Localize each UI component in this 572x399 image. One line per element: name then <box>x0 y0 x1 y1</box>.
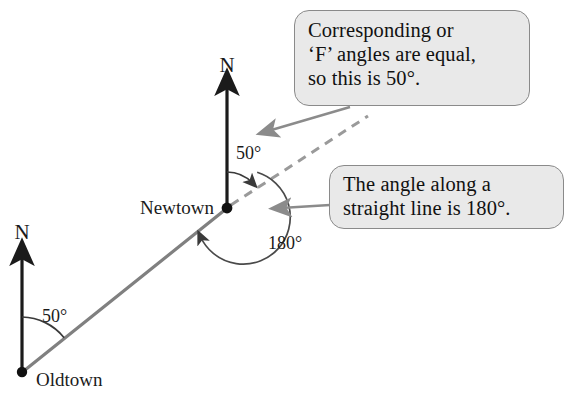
callout-pointer-corresponding <box>268 107 350 131</box>
angle-label-oldtown-50: 50° <box>42 306 67 326</box>
callout-corresponding-angles: Corresponding or ‘F’ angles are equal, s… <box>294 10 530 106</box>
callout-straight-line-line-1: The angle along a <box>343 172 552 196</box>
place-label-oldtown: Oldtown <box>36 369 103 390</box>
callout-straight-line-line-2: straight line is 180°. <box>343 196 552 220</box>
angle-label-newtown-180: 180° <box>268 233 302 253</box>
angle-arc-newtown-50 <box>227 172 253 183</box>
point-newtown-dot <box>222 203 233 214</box>
bearing-line-oldtown-newtown <box>20 205 231 374</box>
place-label-newtown: Newtown <box>140 197 214 218</box>
point-oldtown-dot <box>17 367 27 377</box>
angle-label-newtown-50: 50° <box>236 143 261 163</box>
callout-straight-line-angle: The angle along a straight line is 180°. <box>329 165 564 229</box>
callout-corresponding-line-1: Corresponding or <box>308 18 518 42</box>
callout-corresponding-line-2: ‘F’ angles are equal, <box>308 42 518 66</box>
compass-label-oldtown: N <box>14 220 29 244</box>
diagram-canvas: N N Oldtown Newtown 50° 50° 180° Corresp… <box>0 0 572 399</box>
callout-corresponding-line-3: so this is 50°. <box>308 66 518 90</box>
compass-label-newtown: N <box>219 53 234 77</box>
